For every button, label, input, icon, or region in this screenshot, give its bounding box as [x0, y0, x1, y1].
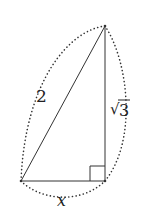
vertex-top [104, 25, 107, 28]
right-angle-marker [90, 166, 105, 181]
vertical-leg-label: √ 3 [110, 100, 130, 120]
hypotenuse-line [21, 26, 105, 181]
radicand: 3 [119, 101, 129, 120]
right-triangle-diagram: 2 √ 3 x [0, 0, 144, 214]
horizontal-leg-label: x [57, 191, 66, 210]
vertex-bottom-right [104, 180, 107, 183]
vertex-bottom-left [20, 180, 23, 183]
hypotenuse-label: 2 [36, 86, 47, 106]
